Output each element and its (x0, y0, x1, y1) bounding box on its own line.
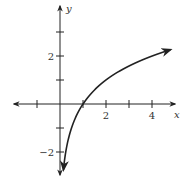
y-axis-label: y (65, 3, 72, 14)
y-tick-label: 2 (48, 51, 54, 62)
y-tick-label: −2 (39, 147, 54, 158)
x-tick-label: 4 (149, 110, 155, 121)
x-tick-label: 2 (103, 110, 109, 121)
ticks (37, 32, 152, 152)
log-graph: 242−2 x y (0, 0, 184, 181)
x-axis-label: x (174, 109, 180, 120)
